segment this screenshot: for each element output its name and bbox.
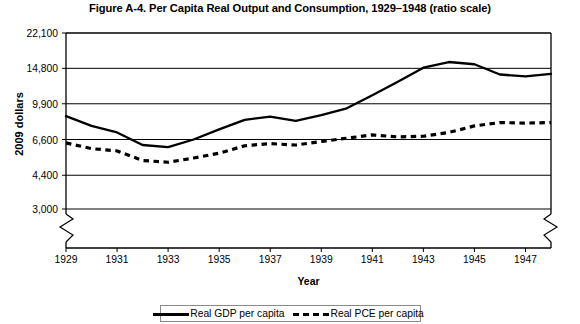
axis-break-marks xyxy=(60,214,557,242)
legend-line-dashed-icon xyxy=(293,313,329,316)
gridlines xyxy=(66,68,551,209)
figure-container: Figure A-4. Per Capita Real Output and C… xyxy=(0,0,580,324)
legend-label-pce: Real PCE per capita xyxy=(330,308,423,319)
legend-label-gdp: Real GDP per capita xyxy=(190,308,284,319)
legend-entry-gdp: Real GDP per capita xyxy=(153,308,288,319)
legend-line-solid-icon xyxy=(153,313,189,316)
chart-legend: Real GDP per capita Real PCE per capita xyxy=(160,305,421,322)
data-series xyxy=(66,62,551,162)
legend-entry-pce: Real PCE per capita xyxy=(288,308,427,319)
plot-area xyxy=(0,0,580,324)
series-line-gdp xyxy=(66,62,551,147)
